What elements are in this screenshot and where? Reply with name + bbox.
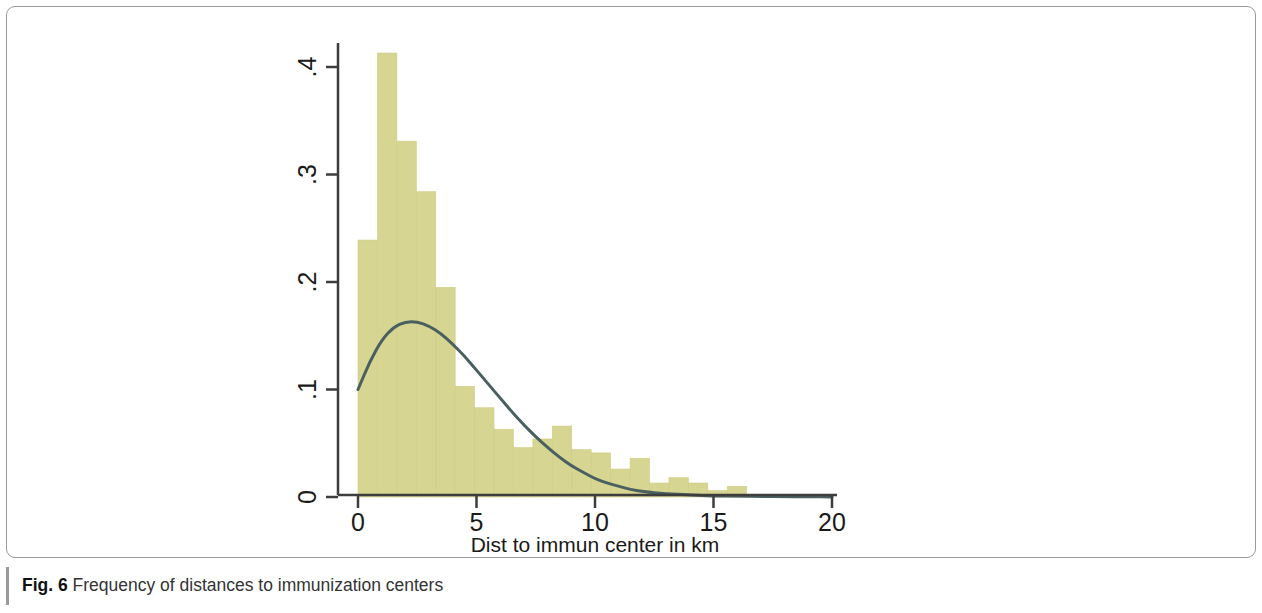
- histogram-bar: [377, 53, 396, 497]
- histogram-bar: [475, 408, 494, 497]
- histogram-bar: [591, 453, 610, 497]
- plot-area: 0.1.2.3.4 05101520 Dist to immun center …: [7, 7, 1257, 559]
- x-axis-tick-label: 10: [581, 508, 609, 536]
- histogram-bar: [494, 429, 513, 497]
- caption-label: Fig. 6: [22, 575, 68, 595]
- figure-caption: Fig. 6 Frequency of distances to immuniz…: [6, 566, 1256, 610]
- figure-page: 0.1.2.3.4 05101520 Dist to immun center …: [0, 0, 1262, 613]
- figure-frame: 0.1.2.3.4 05101520 Dist to immun center …: [6, 6, 1256, 558]
- histogram-bar: [611, 469, 630, 497]
- x-axis-tick-label: 15: [700, 508, 728, 536]
- x-axis-tick-label: 5: [470, 508, 484, 536]
- histogram-chart: 0.1.2.3.4 05101520 Dist to immun center …: [7, 7, 1257, 559]
- histogram-bars: [358, 53, 747, 497]
- histogram-bar: [552, 426, 571, 497]
- x-axis-ticks: 05101520: [351, 495, 846, 536]
- x-axis-tick-label: 20: [818, 508, 846, 536]
- histogram-bar: [455, 386, 474, 497]
- caption-body: Frequency of distances to immunization c…: [68, 575, 443, 595]
- y-axis-tick-label: .4: [293, 56, 321, 77]
- y-axis-ticks: 0.1.2.3.4: [293, 56, 338, 503]
- y-axis-tick-label: .1: [293, 379, 321, 400]
- x-axis-title: Dist to immun center in km: [471, 533, 720, 556]
- y-axis-tick-label: .3: [293, 164, 321, 185]
- y-axis-tick-label: 0: [293, 490, 321, 504]
- x-axis-tick-label: 0: [351, 508, 365, 536]
- histogram-bar: [416, 192, 435, 497]
- histogram-bar: [572, 450, 591, 497]
- histogram-bar: [436, 287, 455, 497]
- caption-text: Fig. 6 Frequency of distances to immuniz…: [9, 566, 443, 604]
- histogram-bar: [397, 141, 416, 497]
- caption-body-text: Frequency of distances to immunization c…: [73, 575, 444, 595]
- y-axis-tick-label: .2: [293, 272, 321, 293]
- histogram-bar: [513, 448, 532, 497]
